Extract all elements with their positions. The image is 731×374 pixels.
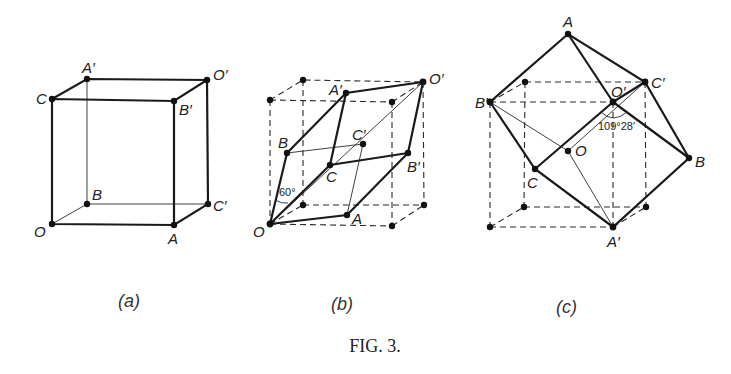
vertex-b <box>84 201 90 207</box>
edge-c-b-prime <box>330 153 408 165</box>
dashed-cube-right-back <box>423 82 424 205</box>
panel-label-b: (b) <box>331 294 353 314</box>
cube-corner <box>267 97 273 103</box>
vertex-a-prime <box>343 90 349 96</box>
vertex-b-prime <box>405 150 411 156</box>
dashed-cube-top-front <box>270 100 392 102</box>
vertex-a <box>171 222 177 228</box>
cube-corner <box>389 99 395 105</box>
dashed-cube-bottom-right <box>392 205 424 226</box>
dashed-cube-top-left <box>490 82 525 102</box>
rhombohedron-outline <box>490 34 689 227</box>
figure-caption: FIG. 3. <box>349 336 401 356</box>
dashed-cube-right-back <box>645 82 646 207</box>
vertex-o <box>49 221 55 227</box>
panel-b-rhombohedron: 60° O A B C A′ B′ C′ O′ <box>253 70 445 240</box>
label-c: C <box>527 174 538 191</box>
cube-corner <box>522 79 528 85</box>
vertex-a-prime <box>610 224 617 231</box>
dashed-cube-bottom-front <box>270 224 392 226</box>
label-a-prime: A′ <box>81 59 96 76</box>
edge-a-o-prime <box>568 34 613 102</box>
label-c-prime: C′ <box>352 126 367 143</box>
cube-corner <box>421 202 427 208</box>
vertex-a <box>344 212 350 218</box>
edge-o-b <box>52 204 87 224</box>
vertex-o-prime <box>420 79 427 86</box>
label-c-prime: C′ <box>213 197 228 214</box>
label-o-prime: O′ <box>213 66 229 83</box>
cube-corner <box>521 204 527 210</box>
label-a: A <box>351 210 362 227</box>
label-o: O <box>253 223 265 240</box>
label-c-prime: C′ <box>651 74 666 91</box>
label-a: A <box>562 13 573 30</box>
vertex-c-prime <box>205 201 211 207</box>
label-c: C <box>326 168 337 185</box>
vertex-a-prime <box>84 76 90 82</box>
label-a-prime: A′ <box>328 81 343 98</box>
angle-arc-60 <box>275 200 288 203</box>
panel-label-a: (a) <box>118 291 140 311</box>
vertex-b-prime <box>171 98 177 104</box>
angle-label-109: 109°28′ <box>598 120 635 132</box>
cube-corner <box>487 224 493 230</box>
cube-corner <box>300 77 306 83</box>
edge-b-prime-o <box>490 102 568 151</box>
vertex-c <box>49 96 55 102</box>
label-o-prime: O′ <box>429 70 445 87</box>
vertex-b <box>686 155 692 161</box>
cube-corner <box>389 223 395 229</box>
dashed-cube-bottom-left <box>490 207 524 227</box>
vertex-a <box>565 31 571 37</box>
vertex-c <box>532 166 538 172</box>
label-o: O <box>575 142 587 159</box>
dashed-cube-left-back <box>524 82 525 207</box>
cube-corner <box>643 204 649 210</box>
label-b-prime: B′ <box>179 101 193 118</box>
label-b: B <box>278 134 288 151</box>
label-o: O <box>34 223 46 240</box>
vertex-c-prime <box>642 79 649 86</box>
vertex-o-prime <box>204 77 210 83</box>
vertex-o <box>267 221 274 228</box>
angle-arc-109 <box>601 112 627 118</box>
vertex-o <box>565 148 571 154</box>
label-b: B <box>92 186 102 203</box>
label-o-prime: O′ <box>611 83 627 100</box>
label-a: A <box>167 230 178 247</box>
label-b-prime: B′ <box>475 94 489 111</box>
dashed-cube-bottom-right <box>613 207 646 227</box>
label-b-prime: B′ <box>407 158 421 175</box>
edge-c-a-prime <box>330 93 346 165</box>
panel-label-c: (c) <box>556 297 577 317</box>
angle-label-60: 60° <box>279 186 296 198</box>
label-b: B <box>695 153 705 170</box>
panel-a-cube: O A B C A′ B′ C′ O′ <box>34 59 229 247</box>
edge-c-prime-a <box>347 144 363 215</box>
edge-o-a-prime <box>568 151 613 227</box>
panel-c-rhombohedron: 109°28′ O A B C A′ B′ C′ O′ <box>475 13 705 250</box>
cube-corner <box>300 202 306 208</box>
label-c: C <box>36 90 47 107</box>
figure-canvas: O A B C A′ B′ C′ O′ 60° <box>0 0 731 374</box>
label-a-prime: A′ <box>606 233 621 250</box>
